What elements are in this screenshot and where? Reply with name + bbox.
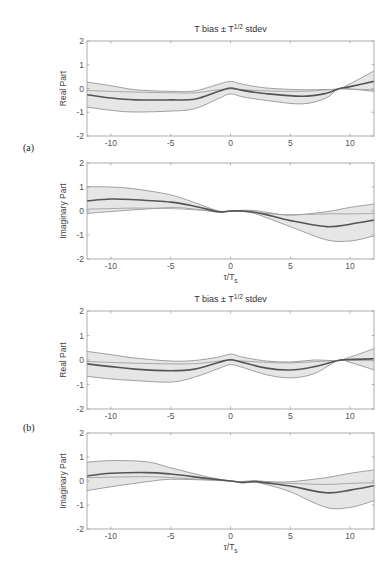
x-tick-label: -10	[105, 531, 118, 541]
y-tick-label: 1	[79, 182, 84, 192]
y-tick-label: -1	[76, 230, 84, 240]
x-axis-label: τ/Ts	[223, 542, 238, 554]
x-tick-label: 5	[288, 411, 293, 421]
x-tick-label: 10	[345, 138, 355, 148]
x-tick-label: 5	[288, 261, 293, 271]
x-axis-label: τ/Ts	[223, 272, 238, 284]
panel-tag-label: (b)	[23, 422, 35, 434]
y-tick-label: 1	[79, 60, 84, 70]
chart-title: T bias ± T1/2 stdev	[194, 293, 267, 305]
x-tick-label: 5	[288, 138, 293, 148]
x-tick-label: 5	[288, 531, 293, 541]
y-axis-label: Imaginary Part	[58, 183, 68, 239]
y-tick-label: -2	[76, 254, 84, 264]
y-tick-label: -1	[76, 107, 84, 117]
x-tick-label: 10	[345, 531, 355, 541]
y-tick-label: 1	[79, 452, 84, 462]
x-tick-label: 10	[345, 411, 355, 421]
y-tick-label: 2	[79, 428, 84, 438]
x-tick-label: 0	[228, 138, 233, 148]
plot-area	[87, 71, 374, 112]
chart-panel-3: -10-50510-2-1012Real PartT bias ± T1/2 s…	[58, 293, 374, 422]
x-tick-label: 0	[228, 261, 233, 271]
x-tick-label: -5	[167, 411, 175, 421]
chart-panel-1: -10-50510-2-1012Real PartT bias ± T1/2 s…	[58, 23, 374, 149]
y-axis-label: Imaginary Part	[58, 453, 68, 509]
chart-title: T bias ± T1/2 stdev	[194, 23, 267, 35]
y-tick-label: -2	[76, 131, 84, 141]
y-tick-label: -2	[76, 524, 84, 534]
y-tick-label: 0	[79, 206, 84, 216]
panel-tags: (a)(b)	[23, 142, 35, 434]
x-tick-label: -5	[167, 138, 175, 148]
y-tick-label: -1	[76, 380, 84, 390]
y-tick-label: 0	[79, 355, 84, 365]
figure: -10-50510-2-1012Real PartT bias ± T1/2 s…	[0, 0, 392, 573]
y-tick-label: -2	[76, 404, 84, 414]
x-tick-label: -10	[105, 411, 118, 421]
y-axis-label: Real Part	[58, 70, 68, 106]
y-tick-label: 0	[79, 476, 84, 486]
panel-tag-label: (a)	[23, 142, 34, 154]
chart-panel-4: -10-50510-2-1012Imaginary Partτ/Ts	[58, 428, 374, 554]
y-tick-label: 2	[79, 36, 84, 46]
y-tick-label: 2	[79, 306, 84, 316]
x-tick-label: -5	[167, 261, 175, 271]
x-tick-label: 10	[345, 261, 355, 271]
y-tick-label: 2	[79, 158, 84, 168]
plot-area	[87, 461, 374, 509]
x-tick-label: -10	[105, 138, 118, 148]
x-tick-label: 0	[228, 531, 233, 541]
chart-panel-2: -10-50510-2-1012Imaginary Partτ/Ts	[58, 158, 374, 284]
y-tick-label: 1	[79, 331, 84, 341]
plot-area	[87, 187, 374, 242]
plot-area	[87, 349, 374, 383]
y-axis-label: Real Part	[58, 342, 68, 378]
panels: -10-50510-2-1012Real PartT bias ± T1/2 s…	[58, 23, 374, 554]
x-tick-label: -5	[167, 531, 175, 541]
y-tick-label: -1	[76, 500, 84, 510]
y-tick-label: 0	[79, 84, 84, 94]
x-tick-label: -10	[105, 261, 118, 271]
x-tick-label: 0	[228, 411, 233, 421]
